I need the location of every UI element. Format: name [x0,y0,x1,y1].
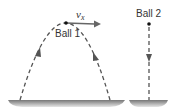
descending-arrow-icon [93,52,99,61]
ball2-dot [147,22,151,26]
ball1-label: Ball 1 [55,28,80,39]
ground-right [129,100,168,107]
velocity-arrowhead-icon [94,21,101,28]
ball1-dot [64,21,68,25]
ground-left [8,100,125,107]
projectile-diagram: vx Ball 1 Ball 2 [0,0,173,112]
velocity-arrow [66,23,95,24]
ball2-label: Ball 2 [136,8,161,19]
falling-arrow-icon [146,54,152,62]
ascending-arrow-icon [35,47,41,57]
velocity-label: vx [76,8,85,22]
